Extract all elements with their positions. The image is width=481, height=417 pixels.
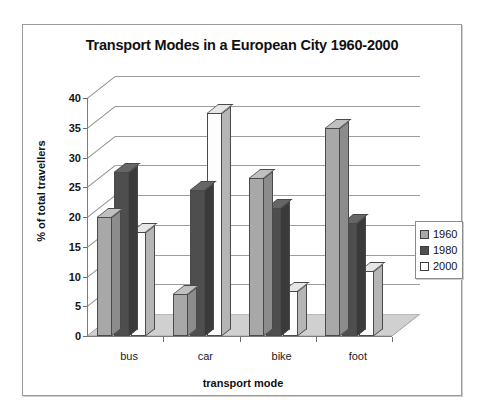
bar-car-1960 bbox=[173, 294, 188, 336]
gridline-connector bbox=[87, 76, 116, 99]
x-tick-mark bbox=[392, 337, 393, 342]
legend-item-1980[interactable]: 1980 bbox=[420, 242, 457, 258]
x-tick-label-car: car bbox=[175, 350, 235, 362]
plot-area: 0510152025303540 % of total travellers b… bbox=[23, 25, 463, 397]
y-tick-label: 5 bbox=[49, 301, 81, 311]
y-axis-line bbox=[87, 98, 88, 337]
legend-label: 1980 bbox=[433, 244, 457, 256]
x-tick-mark bbox=[240, 337, 241, 342]
y-tick-label: 15 bbox=[49, 242, 81, 252]
y-tick-label: 10 bbox=[49, 272, 81, 282]
legend-item-2000[interactable]: 2000 bbox=[420, 258, 457, 274]
y-tick-label: 25 bbox=[49, 182, 81, 192]
bar-side-face bbox=[222, 106, 231, 336]
bar-side-face bbox=[112, 210, 121, 336]
x-tick-label-foot: foot bbox=[328, 350, 388, 362]
bar-side-face bbox=[357, 216, 366, 336]
x-tick-mark bbox=[163, 337, 164, 342]
chart-legend[interactable]: 196019802000 bbox=[415, 221, 463, 279]
gridline-connector bbox=[87, 106, 116, 129]
bar-side-face bbox=[129, 165, 138, 336]
bar-side-face bbox=[188, 287, 197, 336]
bar-front-face bbox=[249, 178, 264, 336]
chart-frame: Transport Modes in a European City 1960-… bbox=[22, 24, 462, 396]
bar-side-face bbox=[298, 284, 307, 336]
gridline bbox=[115, 165, 420, 166]
x-axis-label: transport mode bbox=[23, 377, 463, 389]
bar-foot-1960 bbox=[325, 128, 340, 336]
bar-front-face bbox=[173, 294, 188, 336]
gridline bbox=[115, 136, 420, 137]
x-tick-mark bbox=[316, 337, 317, 342]
y-tick-label: 30 bbox=[49, 153, 81, 163]
y-tick-label: 40 bbox=[49, 93, 81, 103]
gridline-connector bbox=[87, 165, 116, 188]
legend-label: 1960 bbox=[433, 228, 457, 240]
y-tick-label: 20 bbox=[49, 212, 81, 222]
bar-bus-1960 bbox=[97, 217, 112, 336]
gridline-connector bbox=[87, 136, 116, 159]
x-tick-label-bike: bike bbox=[252, 350, 312, 362]
bar-side-face bbox=[205, 183, 214, 336]
legend-swatch-1960 bbox=[420, 230, 429, 239]
chart-screenshot: Transport Modes in a European City 1960-… bbox=[0, 0, 481, 417]
bar-side-face bbox=[146, 225, 155, 336]
bar-side-face bbox=[281, 201, 290, 336]
bar-bike-1960 bbox=[249, 178, 264, 336]
bar-side-face bbox=[264, 171, 273, 336]
bar-side-face bbox=[340, 121, 349, 336]
bar-side-face bbox=[374, 264, 383, 336]
legend-item-1960[interactable]: 1960 bbox=[420, 226, 457, 242]
y-tick-label: 0 bbox=[49, 331, 81, 341]
legend-swatch-2000 bbox=[420, 262, 429, 271]
bar-front-face bbox=[325, 128, 340, 336]
bar-front-face bbox=[97, 217, 112, 336]
legend-swatch-1980 bbox=[420, 246, 429, 255]
gridline bbox=[115, 76, 420, 77]
y-axis-label: % of total travellers bbox=[35, 111, 47, 271]
x-tick-label-bus: bus bbox=[99, 350, 159, 362]
legend-label: 2000 bbox=[433, 260, 457, 272]
gridline bbox=[115, 106, 420, 107]
y-tick-label: 35 bbox=[49, 123, 81, 133]
